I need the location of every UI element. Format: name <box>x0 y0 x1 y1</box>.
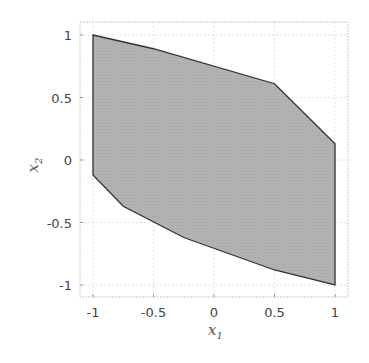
x-axis-ticks: -1-0.500.51 <box>87 294 340 320</box>
x-tick-label: 0 <box>210 305 218 320</box>
y-tick-label: -0.5 <box>47 216 72 231</box>
y-axis-ticks: -1-0.500.51 <box>47 28 83 293</box>
y-tick-label: -1 <box>59 278 72 293</box>
y-axis-label: x2 <box>24 158 44 173</box>
feasible-region-polygon <box>93 35 335 285</box>
x-tick-label: -0.5 <box>141 305 166 320</box>
x-tick-label: 1 <box>331 305 339 320</box>
polytope-chart: -1-0.500.51 -1-0.500.51 x1 x2 <box>0 0 369 363</box>
y-tick-label: 0.5 <box>51 91 72 106</box>
y-tick-label: 0 <box>64 153 72 168</box>
x-tick-label: -1 <box>87 305 100 320</box>
y-tick-label: 1 <box>64 28 72 43</box>
x-tick-label: 0.5 <box>264 305 285 320</box>
x-axis-label: x1 <box>208 321 223 341</box>
